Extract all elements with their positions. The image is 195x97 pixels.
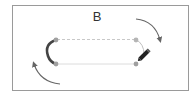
anchor-bottom-left[interactable] bbox=[54, 62, 59, 67]
left-arc-segment bbox=[47, 40, 56, 64]
counterclockwise-arrow-icon bbox=[34, 64, 60, 84]
anchor-top-left[interactable] bbox=[54, 38, 59, 43]
anchor-bottom-right[interactable] bbox=[134, 62, 139, 67]
anchor-top-right[interactable] bbox=[134, 38, 139, 43]
path-diagram bbox=[0, 0, 195, 97]
clockwise-arrow-icon bbox=[136, 19, 160, 40]
